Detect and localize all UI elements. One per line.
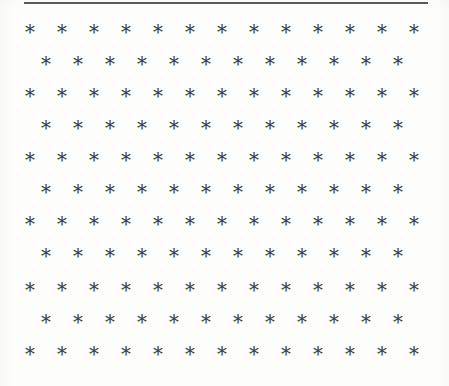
asterisk-icon: * <box>295 54 309 74</box>
asterisk-icon: * <box>135 54 149 74</box>
asterisk-icon: * <box>151 214 165 234</box>
asterisk-icon: * <box>119 86 133 106</box>
asterisk-icon: * <box>167 118 181 138</box>
asterisk-icon: * <box>231 246 245 266</box>
asterisk-icon: * <box>87 86 101 106</box>
asterisk-icon: * <box>183 214 197 234</box>
asterisk-icon: * <box>87 150 101 170</box>
asterisk-icon: * <box>311 214 325 234</box>
asterisk-row: ************* <box>0 344 449 368</box>
asterisk-icon: * <box>215 86 229 106</box>
asterisk-icon: * <box>71 312 85 332</box>
asterisk-icon: * <box>55 280 69 300</box>
asterisk-icon: * <box>327 54 341 74</box>
asterisk-icon: * <box>375 150 389 170</box>
asterisk-icon: * <box>343 22 357 42</box>
asterisk-icon: * <box>311 150 325 170</box>
asterisk-icon: * <box>215 214 229 234</box>
asterisk-row: ************ <box>0 118 449 142</box>
asterisk-icon: * <box>55 214 69 234</box>
asterisk-icon: * <box>295 118 309 138</box>
asterisk-icon: * <box>407 280 421 300</box>
asterisk-icon: * <box>167 246 181 266</box>
asterisk-icon: * <box>375 86 389 106</box>
asterisk-icon: * <box>359 246 373 266</box>
asterisk-icon: * <box>119 280 133 300</box>
asterisk-icon: * <box>391 182 405 202</box>
asterisk-row: ************ <box>0 54 449 78</box>
asterisk-icon: * <box>263 312 277 332</box>
asterisk-icon: * <box>215 280 229 300</box>
asterisk-icon: * <box>279 280 293 300</box>
asterisk-icon: * <box>199 54 213 74</box>
asterisk-icon: * <box>167 312 181 332</box>
asterisk-icon: * <box>343 344 357 364</box>
asterisk-icon: * <box>23 22 37 42</box>
asterisk-icon: * <box>199 182 213 202</box>
asterisk-icon: * <box>183 344 197 364</box>
asterisk-icon: * <box>135 312 149 332</box>
asterisk-icon: * <box>103 118 117 138</box>
asterisk-icon: * <box>135 182 149 202</box>
asterisk-icon: * <box>55 344 69 364</box>
asterisk-icon: * <box>87 22 101 42</box>
asterisk-icon: * <box>135 118 149 138</box>
asterisk-icon: * <box>407 22 421 42</box>
asterisk-icon: * <box>263 54 277 74</box>
asterisk-icon: * <box>391 54 405 74</box>
asterisk-icon: * <box>199 312 213 332</box>
asterisk-icon: * <box>263 246 277 266</box>
asterisk-icon: * <box>103 182 117 202</box>
asterisk-icon: * <box>103 312 117 332</box>
asterisk-icon: * <box>375 22 389 42</box>
asterisk-icon: * <box>247 86 261 106</box>
asterisk-icon: * <box>407 214 421 234</box>
asterisk-icon: * <box>279 150 293 170</box>
asterisk-icon: * <box>311 344 325 364</box>
asterisk-icon: * <box>151 22 165 42</box>
asterisk-icon: * <box>295 312 309 332</box>
asterisk-icon: * <box>151 150 165 170</box>
asterisk-icon: * <box>279 22 293 42</box>
asterisk-icon: * <box>327 312 341 332</box>
asterisk-icon: * <box>55 22 69 42</box>
asterisk-icon: * <box>135 246 149 266</box>
asterisk-icon: * <box>343 86 357 106</box>
asterisk-icon: * <box>87 344 101 364</box>
asterisk-icon: * <box>23 214 37 234</box>
asterisk-icon: * <box>167 54 181 74</box>
asterisk-icon: * <box>407 86 421 106</box>
asterisk-row: ************* <box>0 214 449 238</box>
asterisk-icon: * <box>247 150 261 170</box>
asterisk-icon: * <box>55 150 69 170</box>
asterisk-icon: * <box>215 344 229 364</box>
asterisk-icon: * <box>71 246 85 266</box>
asterisk-icon: * <box>247 280 261 300</box>
asterisk-icon: * <box>183 280 197 300</box>
asterisk-icon: * <box>39 118 53 138</box>
asterisk-icon: * <box>375 214 389 234</box>
asterisk-row: ************ <box>0 182 449 206</box>
asterisk-icon: * <box>375 344 389 364</box>
asterisk-icon: * <box>183 150 197 170</box>
asterisk-row: ************ <box>0 312 449 336</box>
asterisk-icon: * <box>279 214 293 234</box>
asterisk-icon: * <box>343 150 357 170</box>
asterisk-icon: * <box>71 118 85 138</box>
asterisk-icon: * <box>231 118 245 138</box>
asterisk-icon: * <box>119 214 133 234</box>
asterisk-icon: * <box>295 182 309 202</box>
asterisk-row: ************* <box>0 280 449 304</box>
asterisk-icon: * <box>119 344 133 364</box>
asterisk-icon: * <box>359 118 373 138</box>
asterisk-icon: * <box>279 86 293 106</box>
asterisk-icon: * <box>199 118 213 138</box>
asterisk-icon: * <box>327 182 341 202</box>
asterisk-icon: * <box>359 54 373 74</box>
asterisk-icon: * <box>87 214 101 234</box>
asterisk-icon: * <box>295 246 309 266</box>
asterisk-icon: * <box>55 86 69 106</box>
asterisk-icon: * <box>279 344 293 364</box>
asterisk-icon: * <box>407 344 421 364</box>
asterisk-icon: * <box>311 280 325 300</box>
